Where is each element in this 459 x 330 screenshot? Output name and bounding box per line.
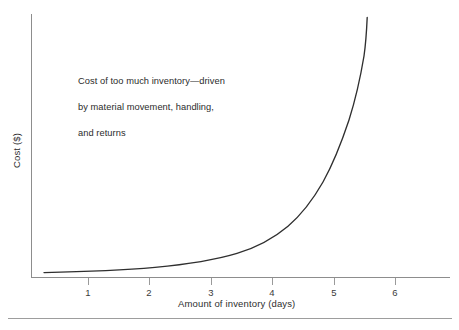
chart-plot-area	[0, 0, 459, 330]
x-tick-label-5: 5	[322, 287, 346, 298]
annotation-line-3: and returns	[78, 127, 268, 140]
chart-figure: 1 2 3 4 5 6 Amount of inventory (days) C…	[0, 0, 459, 330]
x-tick-label-4: 4	[260, 287, 284, 298]
chart-annotation: Cost of too much inventory—driven by mat…	[78, 62, 268, 153]
x-tick-label-1: 1	[76, 287, 100, 298]
x-tick-label-2: 2	[137, 287, 161, 298]
annotation-line-2: by material movement, handling,	[78, 101, 268, 114]
annotation-line-1: Cost of too much inventory—driven	[78, 75, 268, 88]
x-tick-label-6: 6	[383, 287, 407, 298]
x-axis-title: Amount of inventory (days)	[178, 298, 295, 309]
y-axis-title: Cost ($)	[11, 129, 22, 173]
x-axis-ticks	[89, 278, 396, 286]
x-tick-label-3: 3	[199, 287, 223, 298]
